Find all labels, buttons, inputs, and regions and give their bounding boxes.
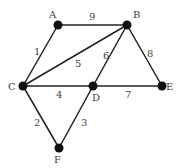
node-label: D <box>92 92 100 103</box>
node-D <box>89 82 98 91</box>
node-label: B <box>133 9 140 20</box>
node-label: A <box>48 9 57 20</box>
edge-C-A <box>23 25 58 86</box>
edge-weight-label: 5 <box>75 58 81 69</box>
edge-weight-label: 1 <box>34 46 40 57</box>
edge-weight-label: 4 <box>56 89 62 100</box>
node-F <box>55 144 64 153</box>
edge-weight-label: 8 <box>147 48 153 59</box>
edge-C-F <box>23 86 59 148</box>
nodes: ABCDEF <box>8 9 173 165</box>
edge-weight-label: 2 <box>34 117 40 128</box>
edge-weight-label: 7 <box>125 89 131 100</box>
node-B <box>123 21 132 30</box>
node-label: F <box>54 154 61 165</box>
node-C <box>19 82 28 91</box>
edges: 915684723 <box>23 11 162 148</box>
node-A <box>54 21 63 30</box>
edge-B-E <box>127 25 162 86</box>
node-label: C <box>8 81 16 92</box>
edge-weight-label: 6 <box>103 50 109 61</box>
node-label: E <box>166 81 173 92</box>
graph-diagram: 915684723 ABCDEF <box>0 0 183 168</box>
edge-weight-label: 3 <box>81 117 87 128</box>
edge-weight-label: 9 <box>89 11 95 22</box>
edge-D-F <box>59 86 93 148</box>
